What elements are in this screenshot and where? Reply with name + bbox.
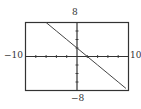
plot-area [0,0,141,109]
graphing-calculator-window: 8 −8 −10 10 [0,0,141,109]
axes [26,23,129,91]
graph-line [46,23,126,89]
